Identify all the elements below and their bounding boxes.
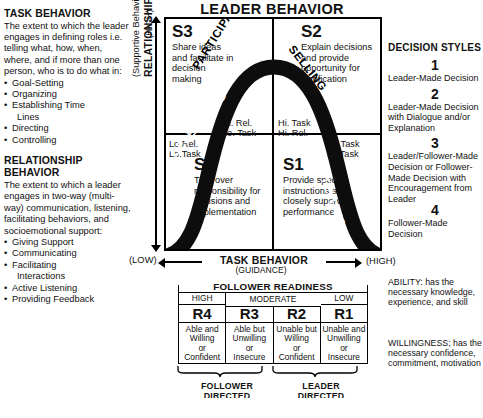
decision-style-number-2: 2 bbox=[388, 86, 482, 102]
relationship-behavior-heading-line2: BEHAVIOR bbox=[4, 167, 132, 179]
x-axis: TASK BEHAVIOR (GUIDANCE) (HIGH) bbox=[158, 254, 388, 278]
list-item: Directing bbox=[4, 123, 132, 134]
decision-style-number-1: 1 bbox=[388, 57, 482, 73]
list-item: Communicating bbox=[4, 248, 132, 259]
table-code-r2: R2 bbox=[274, 305, 320, 323]
list-item: Active Listening bbox=[4, 283, 132, 294]
task-behavior-bullets: Goal-Setting Organizing Establishing Tim… bbox=[4, 78, 132, 146]
list-item: Establishing TimeLines bbox=[4, 100, 132, 123]
table-header-low: LOW bbox=[321, 293, 367, 305]
table-code-r3: R3 bbox=[226, 305, 272, 323]
list-item-continuation: Lines bbox=[12, 112, 132, 123]
table-cell-r3-desc: Able but Unwilling or Insecure bbox=[226, 323, 272, 363]
list-item: Organizing bbox=[4, 89, 132, 100]
table-header-high: HIGH bbox=[179, 293, 225, 305]
page-title: LEADER BEHAVIOR bbox=[160, 1, 384, 17]
situational-leadership-diagram: TASK BEHAVIOR The extent to which the le… bbox=[0, 0, 483, 418]
table-header-moderate-span: MODERATE bbox=[226, 293, 321, 307]
quadrant-s2-mini-label: Hi. Task Hi. Rel. bbox=[278, 118, 311, 139]
willingness-definition: WILLINGNESS; has the necessary confidenc… bbox=[388, 338, 483, 369]
ability-definition: ABILITY: has the necessary knowledge, ex… bbox=[388, 277, 483, 308]
decision-style-number-4: 4 bbox=[388, 202, 482, 218]
table-cell-r4-desc: Able and Willing or Confident bbox=[179, 323, 225, 363]
decision-style-text-4: Follower-Made Decision bbox=[388, 218, 482, 239]
decision-style-number-3: 3 bbox=[388, 135, 482, 151]
list-item: FacilitatingInteractions bbox=[4, 260, 132, 283]
quadrant-s4-code: S4 bbox=[194, 156, 268, 174]
x-axis-high-label: (HIGH) bbox=[366, 255, 396, 266]
table-column-r4[interactable]: HIGH R4 Able and Willing or Confident bbox=[179, 293, 226, 363]
x-axis-arrow-right-icon bbox=[355, 258, 362, 268]
list-item: Controlling bbox=[4, 135, 132, 146]
decision-style-text-1: Leader-Made Decision bbox=[388, 73, 482, 84]
list-item: Giving Support bbox=[4, 237, 132, 248]
follower-readiness-title: FOLLOWER READINESS bbox=[178, 281, 368, 292]
list-item: Providing Feedback bbox=[4, 294, 132, 305]
quadrant-s2[interactable]: S2 Explain decisions and provide opportu… bbox=[273, 19, 380, 134]
quadrant-s4-description: Turn over responsibility for decisions a… bbox=[194, 175, 272, 217]
table-code-r4: R4 bbox=[179, 305, 225, 323]
y-axis-arrow-down-icon bbox=[151, 245, 161, 252]
y-axis: (HIGH) RELATIONSHIP BEHAVIOR (Supportive… bbox=[129, 17, 163, 251]
y-axis-subtitle: (Supportive Behavior) bbox=[131, 0, 141, 77]
relationship-behavior-body: The extent to which a leader engages in … bbox=[4, 180, 132, 237]
leader-behavior-grid: S3 Share ideas and facilitate in decisio… bbox=[164, 17, 382, 251]
bottom-margin bbox=[0, 398, 483, 418]
table-cell-r1-desc: Unable and Unwilling or Insecure bbox=[321, 323, 367, 363]
table-column-r1[interactable]: LOW R1 Unable and Unwilling or Insecure bbox=[321, 293, 367, 363]
quadrant-s2-code: S2 bbox=[301, 23, 375, 41]
list-item: Goal-Setting bbox=[4, 78, 132, 89]
task-behavior-heading: TASK BEHAVIOR bbox=[4, 8, 132, 20]
relationship-behavior-bullets: Giving Support Communicating Facilitatin… bbox=[4, 237, 132, 305]
y-axis-line bbox=[155, 21, 157, 247]
left-definitions-panel: TASK BEHAVIOR The extent to which the le… bbox=[4, 8, 132, 305]
y-axis-low-label: (LOW) bbox=[129, 254, 157, 265]
relationship-behavior-heading-line1: RELATIONSHIP bbox=[4, 155, 132, 167]
table-cell-r2-desc: Unable but Willing or Confident bbox=[274, 323, 320, 363]
task-behavior-body: The extent to which the leader engages i… bbox=[4, 21, 132, 78]
decision-style-text-2: Leader-Made Decision with Dialogue and/o… bbox=[388, 102, 482, 134]
decision-styles-title: DECISION STYLES bbox=[388, 42, 482, 53]
y-axis-title: RELATIONSHIP BEHAVIOR bbox=[142, 0, 154, 77]
decision-style-text-3: Leader/Follower-Made Decision or Followe… bbox=[388, 151, 482, 204]
table-code-r1: R1 bbox=[321, 305, 367, 323]
quadrant-s3-mini-label: Hi. Rel. Lo. Task bbox=[222, 118, 256, 139]
decision-styles-panel: DECISION STYLES 1 Leader-Made Decision 2… bbox=[388, 42, 482, 240]
x-axis-subtitle: (GUIDANCE) bbox=[202, 265, 320, 275]
direction-braces-icon bbox=[170, 364, 378, 380]
quadrant-s1-mini-label: Hi. Task Lo.Task bbox=[327, 139, 360, 160]
x-axis-arrow-left-icon bbox=[158, 258, 165, 268]
list-item-continuation: Interactions bbox=[12, 271, 132, 282]
